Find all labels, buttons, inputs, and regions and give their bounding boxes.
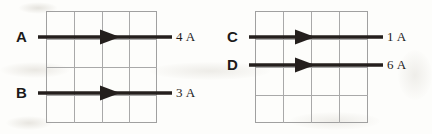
arrow-d-value-label: 6 A	[387, 58, 407, 71]
diagram-svg	[0, 0, 432, 134]
arrow-c	[249, 30, 383, 45]
arrow-c-letter-label: C	[227, 29, 238, 44]
arrow-c-value-label: 1 A	[387, 30, 407, 43]
arrow-a-letter-label: A	[16, 29, 27, 44]
arrow-a-value-label: 4 A	[176, 30, 196, 43]
arrow-b-letter-label: B	[16, 85, 27, 100]
arrow-b	[38, 86, 172, 101]
arrow-b-value-label: 3 A	[176, 86, 196, 99]
arrow-d-letter-label: D	[227, 57, 238, 72]
right-grid	[256, 12, 368, 123]
arrow-b-head-icon	[100, 86, 120, 101]
left-grid	[47, 12, 157, 123]
arrow-d	[249, 58, 383, 73]
arrow-a	[38, 30, 172, 45]
figure-canvas: A B 4 A 3 A C D 1 A 6 A	[0, 0, 432, 134]
arrow-a-head-icon	[100, 30, 120, 45]
